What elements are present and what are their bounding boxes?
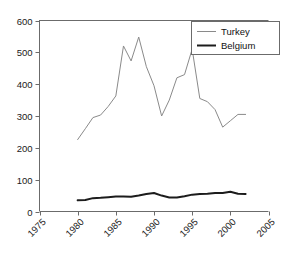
y-axis-ticks xyxy=(36,22,40,213)
y-tick-label: 600 xyxy=(17,16,33,27)
x-axis-tick-labels: 1975198019851990199520002005 xyxy=(25,216,277,239)
x-tick-label: 2005 xyxy=(254,216,277,239)
y-tick-label: 0 xyxy=(27,207,32,218)
y-tick-label: 300 xyxy=(17,111,33,122)
legend-label-turkey: Turkey xyxy=(221,26,250,37)
x-axis-ticks xyxy=(41,212,270,216)
x-tick-label: 1980 xyxy=(63,216,86,239)
x-tick-label: 2000 xyxy=(215,216,238,239)
x-tick-label: 1995 xyxy=(177,216,200,239)
x-axis: 1975198019851990199520002005 xyxy=(25,212,277,239)
chart-container: 0100200300400500600 19751980198519901995… xyxy=(0,0,284,253)
x-tick-label: 1990 xyxy=(139,216,162,239)
y-tick-label: 400 xyxy=(17,79,33,90)
y-axis-tick-labels: 0100200300400500600 xyxy=(17,16,33,218)
legend-label-belgium: Belgium xyxy=(221,40,255,51)
x-tick-label: 1985 xyxy=(101,216,124,239)
y-tick-label: 100 xyxy=(17,175,33,186)
y-tick-label: 500 xyxy=(17,47,33,58)
legend: Turkey Belgium xyxy=(192,22,280,55)
y-tick-label: 200 xyxy=(17,143,33,154)
x-tick-label: 1975 xyxy=(25,216,48,239)
line-chart-plot: 0100200300400500600 19751980198519901995… xyxy=(0,0,284,253)
series-line-belgium xyxy=(78,192,246,201)
y-axis: 0100200300400500600 xyxy=(17,16,40,218)
